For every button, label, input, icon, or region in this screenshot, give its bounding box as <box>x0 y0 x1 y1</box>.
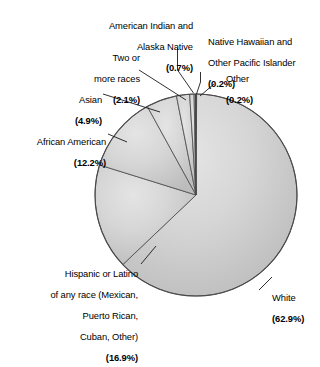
pie-slice-other[interactable] <box>195 94 196 195</box>
label-line: Native Hawaiian and <box>208 36 292 47</box>
label-percent: (62.9%) <box>272 313 304 324</box>
label-line: White <box>272 292 295 303</box>
label-white: White (62.9%) <box>262 282 318 335</box>
label-line: African American <box>37 136 106 147</box>
label-percent: (0.7%) <box>166 62 193 73</box>
label-line: more races <box>94 73 140 84</box>
label-line: of any race (Mexican, <box>50 289 138 300</box>
label-hispanic-or-latino: Hispanic or Latino of any race (Mexican,… <box>10 258 138 367</box>
label-percent: (0.2%) <box>226 94 253 105</box>
label-line: Other <box>226 73 249 84</box>
label-line: Puerto Rican, <box>83 310 139 321</box>
label-line: Two or <box>112 52 140 63</box>
label-line: American Indian and <box>109 20 193 31</box>
label-percent: (16.9%) <box>106 352 138 363</box>
label-african-american: African American (12.2%) <box>8 126 106 179</box>
label-percent: (2.1%) <box>113 94 140 105</box>
label-line: Hispanic or Latino <box>65 268 138 279</box>
label-line: Alaska Native <box>137 41 193 52</box>
label-percent: (12.2%) <box>74 157 106 168</box>
label-other: Other (0.2%) <box>216 63 286 116</box>
label-line: Asian <box>79 94 102 105</box>
label-line: Cuban, Other) <box>80 331 138 342</box>
label-percent: (4.9%) <box>75 115 102 126</box>
